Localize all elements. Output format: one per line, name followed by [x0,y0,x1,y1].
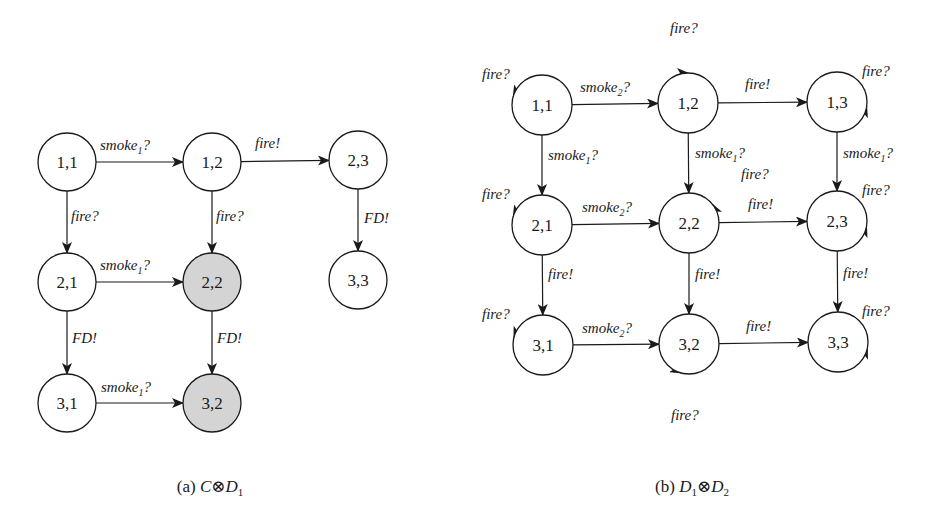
state-node: 2,2 [183,253,241,311]
state-label: 3,2 [678,335,699,354]
edge-label: fire! [843,265,868,281]
transition-edge: fire? [212,191,244,253]
state-label: 2,2 [201,273,222,292]
edge-arrow [688,133,689,193]
state-node: 2,3 [329,131,387,189]
edge-arrow [542,255,543,315]
edge-label: smoke1? [843,145,894,164]
transition-edge: smoke1? [688,133,745,193]
transition-edge: fire! [689,253,720,314]
edge-arrow [719,342,808,343]
state-label: 3,1 [56,394,77,413]
state-label: 1,2 [201,153,222,172]
edge-arrow [241,160,329,161]
loop-label: fire? [671,407,699,423]
loop-label: fire? [482,186,510,202]
transition-edge: fire? [67,191,99,253]
state-label: 1,2 [677,94,698,113]
edge-label: FD! [71,330,97,346]
edge-label: fire! [255,135,280,151]
transition-edge: FD! [67,311,97,374]
state-label: 3,1 [532,336,553,355]
loop-label: fire? [862,63,890,79]
state-label: 2,1 [531,216,552,235]
transition-edge: FD! [358,189,389,251]
state-node: 2,1 [512,195,572,255]
state-node: 1,2 [183,133,241,191]
transition-edge: smoke2? [573,320,659,345]
transition-edge: smoke1? [96,379,183,403]
state-node: 2,1 [38,253,96,311]
diagram-c-tensor-d1: smoke1?fire!fire?fire?FD!smoke1?FD!FD!sm… [38,131,389,498]
state-node: 3,1 [513,315,573,375]
transition-edge: smoke2? [572,199,659,225]
transition-edge: fire! [719,196,807,223]
state-node: 1,2 [658,73,718,133]
state-label: 1,3 [826,93,847,112]
edge-label: fire! [748,196,773,212]
edge-label: smoke2? [582,320,633,339]
edge-label: fire! [695,266,720,282]
state-node: 3,1 [38,374,96,432]
transition-edge: fire! [719,318,808,344]
loop-label: fire? [482,306,510,322]
loop-label: fire? [670,20,698,36]
state-label: 3,3 [347,271,368,290]
transition-edge: smoke2? [572,79,658,105]
state-node: 3,2 [183,374,241,432]
state-node: 1,1 [512,75,572,135]
state-node: 3,3 [808,312,868,372]
loop-label: fire? [482,66,510,82]
transition-edge: smoke1? [96,257,183,282]
figure-caption: (b) D1⊗D2 [655,477,729,498]
edge-arrow [719,221,807,222]
edge-arrow [837,251,838,312]
state-node: 1,3 [807,72,867,132]
diagram-d1-tensor-d2: smoke2?fire!smoke1?smoke1?smoke1?smoke2?… [482,20,894,498]
figure: smoke1?fire!fire?fire?FD!smoke1?FD!FD!sm… [0,0,940,530]
state-label: 3,2 [201,394,222,413]
edge-arrow [573,344,659,345]
figure-canvas: smoke1?fire!fire?fire?FD!smoke1?FD!FD!sm… [0,0,940,530]
state-label: 3,3 [827,333,848,352]
edge-label: fire? [71,208,99,224]
edge-label: smoke1? [100,137,151,156]
state-node: 2,2 [659,193,719,253]
transition-edge: fire! [542,255,573,315]
edge-label: fire! [745,76,770,92]
edge-label: smoke1? [548,147,599,166]
self-loop: fire? [670,20,698,73]
state-label: 1,1 [531,96,552,115]
edge-label: smoke2? [582,199,633,218]
transition-edge: smoke1? [96,137,183,162]
transition-edge: smoke1? [542,135,599,195]
state-node: 3,3 [329,251,387,309]
loop-label: fire? [862,182,890,198]
edge-label: smoke1? [100,257,151,276]
edge-label: smoke1? [101,379,152,398]
state-label: 2,1 [56,273,77,292]
edge-label: fire! [746,318,771,334]
edge-label: fire! [548,266,573,282]
state-node: 1,1 [38,133,96,191]
edge-arrow [572,223,659,224]
state-node: 2,3 [807,191,867,251]
state-label: 1,1 [56,153,77,172]
edge-label: smoke1? [695,145,746,164]
edge-label: FD! [363,210,389,226]
edge-arrow [718,102,807,103]
loop-label: fire? [862,303,890,319]
edge-label: FD! [216,330,242,346]
transition-edge: fire! [241,135,329,162]
loop-label: fire? [741,166,769,182]
edge-label: smoke2? [580,79,631,98]
transition-edge: FD! [212,311,242,374]
edge-label: fire? [216,208,244,224]
state-label: 2,3 [347,151,368,170]
state-label: 2,3 [826,212,847,231]
edge-arrow [572,103,658,104]
figure-caption: (a) C⊗D1 [177,477,244,498]
transition-edge: fire! [718,76,807,103]
state-label: 2,2 [678,214,699,233]
state-node: 3,2 [659,314,719,374]
